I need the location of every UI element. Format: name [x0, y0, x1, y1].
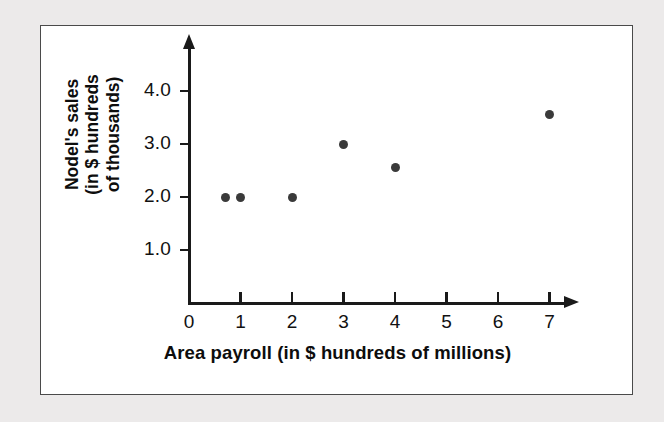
data-point: [339, 140, 348, 149]
y-axis-title-line-1: Nodel's sales: [62, 49, 82, 219]
y-axis-title: Nodel's sales (in $ hundreds of thousand…: [62, 49, 123, 219]
y-tick-4.0: [180, 90, 190, 93]
x-tick-label-5: 5: [427, 311, 467, 333]
data-point: [221, 193, 230, 202]
y-tick-2.0: [180, 196, 190, 199]
x-tick-0: [188, 292, 191, 303]
x-tick-6: [497, 292, 500, 303]
x-axis-line: [188, 302, 566, 305]
x-tick-label-4: 4: [375, 311, 415, 333]
x-axis-title: Area payroll (in $ hundreds of millions): [41, 342, 634, 364]
scatter-plot: 1.02.03.04.0 01234567 Area payroll (in $…: [41, 26, 634, 396]
x-tick-label-6: 6: [478, 311, 518, 333]
y-axis-title-line-3: of thousands): [102, 49, 122, 219]
x-tick-4: [394, 292, 397, 303]
y-tick-1.0: [180, 249, 190, 252]
y-tick-label-3.0: 3.0: [125, 132, 171, 154]
x-tick-7: [548, 292, 551, 303]
x-tick-label-2: 2: [272, 311, 312, 333]
x-tick-label-0: 0: [169, 311, 209, 333]
y-axis-arrow-icon: [183, 34, 195, 49]
y-tick-label-2.0: 2.0: [125, 185, 171, 207]
y-axis-title-line-2: (in $ hundreds: [82, 49, 102, 219]
y-tick-label-4.0: 4.0: [125, 79, 171, 101]
y-axis-line: [188, 48, 191, 304]
x-tick-5: [445, 292, 448, 303]
y-tick-3.0: [180, 143, 190, 146]
data-point: [236, 193, 245, 202]
x-tick-3: [342, 292, 345, 303]
x-tick-label-3: 3: [324, 311, 364, 333]
x-tick-label-7: 7: [530, 311, 570, 333]
x-tick-label-1: 1: [221, 311, 261, 333]
x-tick-1: [239, 292, 242, 303]
figure-card: 1.02.03.04.0 01234567 Area payroll (in $…: [40, 25, 633, 395]
x-tick-2: [291, 292, 294, 303]
data-point: [288, 193, 297, 202]
x-axis-arrow-icon: [564, 296, 579, 308]
data-point: [545, 110, 554, 119]
data-point: [391, 163, 400, 172]
y-tick-label-1.0: 1.0: [125, 238, 171, 260]
